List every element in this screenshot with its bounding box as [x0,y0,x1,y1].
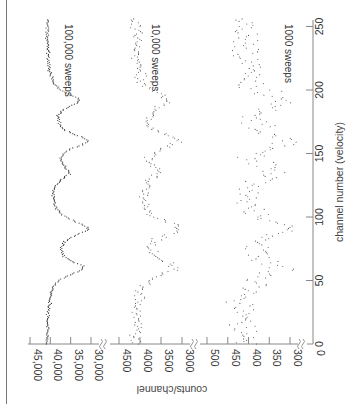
data-point [270,180,271,181]
data-point [146,214,147,215]
data-point [292,270,293,271]
data-point [275,110,276,111]
data-point [69,259,70,260]
data-point [58,280,59,281]
data-point [153,216,154,217]
data-point [151,238,152,239]
data-point [171,265,172,266]
data-point [134,77,135,78]
data-point [47,61,48,62]
data-point [261,237,262,238]
data-point [138,319,139,320]
data-point [226,302,227,303]
data-point [268,271,269,272]
data-point [141,40,142,41]
data-point [152,277,153,278]
data-point [150,249,151,250]
data-point [53,192,54,193]
data-point [81,136,82,137]
data-point [177,232,178,233]
data-point [296,142,297,143]
data-point [165,220,166,221]
data-point [140,304,141,305]
data-point [47,311,48,312]
data-point [140,81,141,82]
data-point [170,263,171,264]
data-point [289,227,290,228]
data-point [282,266,283,267]
data-point [251,62,252,63]
data-point [65,242,66,243]
data-point [148,181,149,182]
data-point [245,39,246,40]
data-point [286,100,287,101]
data-point [152,279,153,280]
data-point [134,55,135,56]
data-point [141,300,142,301]
data-point [271,103,272,104]
data-point [151,119,152,120]
data-point [58,123,59,124]
data-point [84,226,85,227]
data-point [242,18,243,19]
data-point [47,340,48,341]
data-point [57,116,58,117]
data-point [272,136,273,137]
data-point [137,302,138,303]
data-point [52,290,53,291]
data-point [236,30,237,31]
data-point [82,267,83,268]
data-point [252,22,253,23]
data-point [256,117,257,118]
data-point [48,305,49,306]
data-point [134,50,135,51]
data-point [248,255,249,256]
data-point [256,166,257,167]
data-point [59,158,60,159]
data-point [166,237,167,238]
data-point [159,107,160,108]
data-point [78,233,79,234]
data-point [60,111,61,112]
data-point [53,82,54,83]
data-point [142,32,143,33]
data-point [266,285,267,286]
data-point [48,312,49,313]
data-point [280,105,281,106]
data-point [253,65,254,66]
data-point [241,122,242,123]
data-point [246,201,247,202]
data-point [246,36,247,37]
data-point [160,148,161,149]
data-point [48,20,49,21]
data-point [143,286,144,287]
data-point [174,223,175,224]
data-point [138,72,139,73]
data-point [50,74,51,75]
data-point [149,211,150,212]
data-point [138,22,139,23]
data-point [238,37,239,38]
data-point [249,191,250,192]
data-point [146,121,147,122]
data-point [145,73,146,74]
data-point [141,327,142,328]
data-point [254,210,255,211]
data-point [248,128,249,129]
data-point [290,102,291,103]
data-point [47,19,48,20]
data-point [143,194,144,195]
data-point [135,333,136,334]
data-point [64,255,65,256]
data-point [149,162,150,163]
data-point [61,159,62,160]
data-point [67,275,68,276]
data-point [288,228,289,229]
data-point [284,145,285,146]
data-point [239,56,240,57]
data-point [148,192,149,193]
data-point [259,272,260,273]
data-point [162,261,163,262]
data-point [58,118,59,119]
data-point [165,222,166,223]
